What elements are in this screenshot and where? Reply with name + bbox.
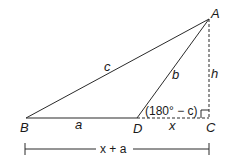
- side-label-b: b: [172, 67, 179, 82]
- side-label-x: x: [168, 118, 176, 133]
- vertex-label-a: A: [210, 6, 220, 21]
- side-label-a: a: [75, 117, 82, 132]
- vertex-label-d: D: [133, 121, 142, 136]
- vertex-label-b: B: [20, 120, 29, 135]
- dimension-label: x + a: [100, 142, 127, 156]
- side-label-h: h: [211, 66, 218, 81]
- right-angle-marker: [201, 110, 209, 118]
- side-label-c: c: [104, 59, 111, 74]
- vertex-label-c: C: [206, 120, 216, 135]
- triangle-diagram: A B D C c b h a x (180° − c) x + a: [0, 0, 236, 165]
- angle-label: (180° − c): [145, 104, 198, 118]
